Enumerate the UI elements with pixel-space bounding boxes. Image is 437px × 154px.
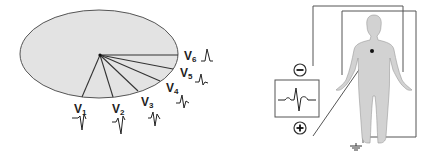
lead-v2: V2 — [112, 102, 125, 134]
v4-waveform-icon — [176, 95, 189, 108]
lead-v4: V4 — [166, 81, 189, 108]
svg-text:V4: V4 — [166, 81, 179, 96]
lead-v5: V5 — [180, 66, 208, 85]
ecg-monitor — [275, 80, 319, 117]
positive-terminal-icon — [294, 122, 306, 134]
v2-waveform-icon — [112, 116, 125, 134]
svg-text:V1: V1 — [74, 102, 87, 117]
lead-v6: V6 — [184, 49, 213, 64]
heart-center-dot — [98, 53, 101, 56]
v6-waveform-icon — [201, 49, 213, 61]
v3-waveform-icon — [148, 112, 160, 126]
v5-waveform-icon — [195, 74, 208, 85]
ground-icon — [350, 143, 362, 150]
lead-v1: V1 — [72, 102, 87, 130]
lead-v1-label: V — [74, 102, 82, 116]
v1-waveform-icon — [72, 114, 86, 130]
negative-terminal-icon — [294, 64, 306, 76]
svg-text:V5: V5 — [180, 66, 193, 81]
svg-text:V6: V6 — [184, 49, 197, 64]
lead-v3: V3 — [141, 95, 160, 126]
svg-text:V3: V3 — [141, 95, 154, 110]
ecg-precordial-diagram: V1 V2 V3 V4 V5 V6 — [0, 0, 437, 154]
human-body — [336, 15, 412, 143]
chest-electrode — [370, 49, 374, 53]
svg-text:V2: V2 — [112, 102, 125, 117]
horizontal-plane — [20, 10, 178, 98]
